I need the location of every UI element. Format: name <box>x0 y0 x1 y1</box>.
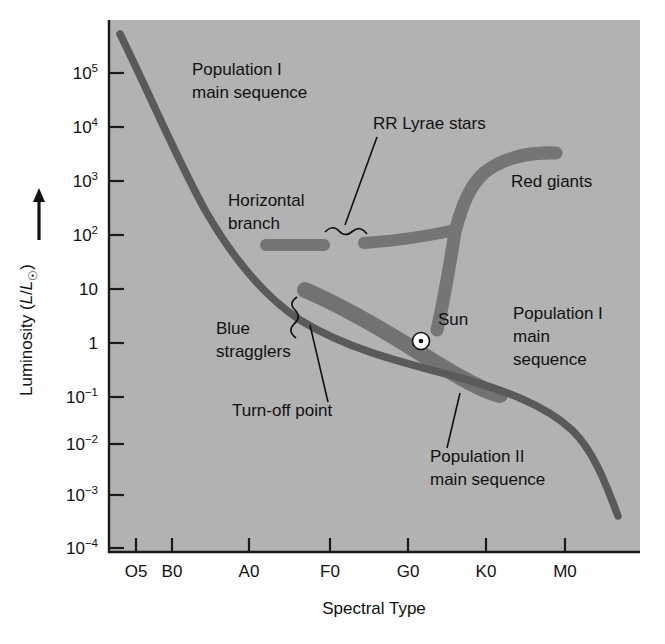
sun-symbol-icon: ☉ <box>27 270 39 281</box>
y-axis-title-text: Luminosity <box>17 314 36 396</box>
x-tick-label-g0: G0 <box>397 562 420 581</box>
svg-text:10−2: 10−2 <box>66 433 98 454</box>
annotation-sun-label: Sun <box>438 310 468 329</box>
annotation-pop1-right-line1: Population I <box>513 304 603 323</box>
x-tick-label-f0: F0 <box>320 562 340 581</box>
y-tick-mantissa-5: 10 <box>79 280 98 299</box>
y-tick-mantissa-1: 10 <box>73 64 92 83</box>
plot-area-background <box>109 20 640 552</box>
y-axis-paren-open: ( <box>17 304 36 315</box>
y-tick-mantissa-9: 10 <box>66 486 85 505</box>
y-tick-mantissa-10: 10 <box>66 539 85 558</box>
svg-text:10−4: 10−4 <box>66 537 99 558</box>
svg-text:103: 103 <box>73 170 98 191</box>
annotation-sun: Sun <box>438 310 468 329</box>
x-tick-label-o5: O5 <box>125 562 148 581</box>
svg-text:102: 102 <box>73 224 98 245</box>
sun-marker-dot <box>419 339 424 344</box>
y-axis-symbol-l2: L <box>17 281 36 290</box>
annotation-pop2-line1: Population II <box>430 447 525 466</box>
annotation-red-giants-label: Red giants <box>511 172 592 191</box>
x-tick-label-m0: M0 <box>553 562 577 581</box>
y-tick-mantissa-2: 10 <box>73 118 92 137</box>
annotation-blue-line1: Blue <box>216 319 250 338</box>
y-tick-exponent-9: −3 <box>85 484 98 496</box>
annotation-pop2-line2: main sequence <box>430 470 545 489</box>
y-tick-mantissa-7: 10 <box>66 388 85 407</box>
y-tick-mantissa-3: 10 <box>73 172 92 191</box>
svg-text:104: 104 <box>73 116 99 137</box>
y-tick-mantissa-6: 1 <box>89 334 98 353</box>
y-axis-paren-close: ) <box>17 264 36 270</box>
sun-marker[interactable] <box>413 333 430 350</box>
y-tick-exponent-8: −2 <box>85 433 98 445</box>
svg-text:10−1: 10−1 <box>66 386 98 407</box>
annotation-red-giants: Red giants <box>511 172 592 191</box>
x-axis-tick-labels: O5 B0 A0 F0 G0 K0 M0 <box>125 562 577 581</box>
annotation-hb-line2: branch <box>228 214 280 233</box>
annotation-pop1-right-line3: sequence <box>513 350 587 369</box>
x-tick-label-k0: K0 <box>476 562 497 581</box>
y-tick-exponent-4: 2 <box>92 224 98 236</box>
annotation-pop1-top-line2: main sequence <box>192 83 307 102</box>
y-tick-exponent-1: 5 <box>92 62 98 74</box>
y-axis-title-group: Luminosity (L/L☉) <box>17 264 39 396</box>
svg-text:Luminosity (L/L☉): Luminosity (L/L☉) <box>17 264 39 396</box>
annotation-blue-line2: stragglers <box>216 342 291 361</box>
y-axis-up-arrow-icon <box>33 188 45 240</box>
annotation-pop1-top-line1: Population I <box>192 60 282 79</box>
svg-text:105: 105 <box>73 62 98 83</box>
y-axis-tick-labels: 105 104 103 102 10 1 10−1 10−2 10−3 <box>66 62 99 558</box>
annotation-turnoff-label: Turn-off point <box>232 401 332 420</box>
svg-text:10−3: 10−3 <box>66 484 98 505</box>
y-tick-mantissa-8: 10 <box>66 435 85 454</box>
x-tick-label-b0: B0 <box>162 562 183 581</box>
y-axis-symbol-l: L <box>17 295 36 304</box>
hr-diagram-figure: 105 104 103 102 10 1 10−1 10−2 10−3 <box>0 0 665 644</box>
y-tick-exponent-3: 3 <box>92 170 98 182</box>
x-tick-label-a0: A0 <box>239 562 260 581</box>
annotation-hb-line1: Horizontal <box>228 191 305 210</box>
y-tick-exponent-2: 4 <box>92 116 99 128</box>
y-tick-mantissa-4: 10 <box>73 226 92 245</box>
annotation-rr-lyrae-label: RR Lyrae stars <box>373 114 486 133</box>
y-tick-exponent-10: −4 <box>85 537 99 549</box>
y-tick-exponent-7: −1 <box>85 386 98 398</box>
x-axis-title: Spectral Type <box>322 599 426 618</box>
hr-diagram-svg: 105 104 103 102 10 1 10−1 10−2 10−3 <box>0 0 665 644</box>
annotation-pop1-right-line2: main <box>513 327 550 346</box>
